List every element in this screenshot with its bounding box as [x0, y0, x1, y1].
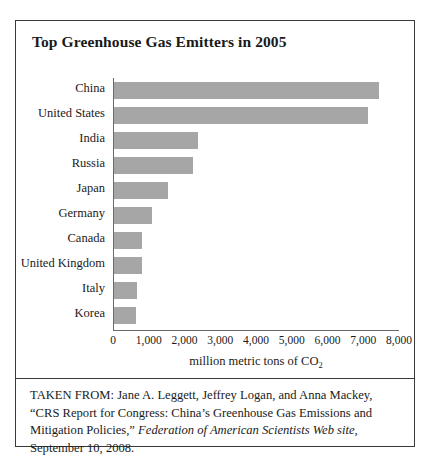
bar-row: Korea [113, 303, 399, 328]
bar-row: Japan [113, 178, 399, 203]
category-label-japan: Japan [0, 181, 105, 196]
x-tick-label: 6,000 [315, 334, 341, 346]
category-label-russia: Russia [0, 156, 105, 171]
category-label-united-states: United States [0, 106, 105, 121]
category-label-united-kingdom: United Kingdom [0, 256, 105, 271]
bar-row: Germany [113, 203, 399, 228]
category-label-germany: Germany [0, 206, 105, 221]
x-axis-line [113, 330, 399, 331]
category-label-india: India [0, 131, 105, 146]
x-tick-label: 2,000 [172, 334, 198, 346]
x-tick-label: 0 [110, 334, 116, 346]
x-axis-title: million metric tons of CO2 [113, 354, 399, 369]
bar-chart: ChinaUnited StatesIndiaRussiaJapanGerman… [16, 73, 414, 373]
bar-italy [114, 282, 137, 299]
bar-united-states [114, 107, 368, 124]
bar-row: United States [113, 103, 399, 128]
category-label-italy: Italy [0, 281, 105, 296]
bar-germany [114, 207, 152, 224]
bar-korea [114, 307, 136, 324]
figure-caption: TAKEN FROM: Jane A. Leggett, Jeffrey Log… [30, 387, 402, 457]
figure-title: Top Greenhouse Gas Emitters in 2005 [32, 33, 287, 51]
x-tick-label: 4,000 [243, 334, 269, 346]
category-label-korea: Korea [0, 306, 105, 321]
bar-row: China [113, 78, 399, 103]
bar-japan [114, 182, 168, 199]
caption-source-title: Federation of American Scientists Web si… [138, 423, 355, 437]
x-tick-label: 5,000 [279, 334, 305, 346]
plot-area: ChinaUnited StatesIndiaRussiaJapanGerman… [113, 78, 399, 330]
bar-china [114, 82, 379, 99]
category-label-china: China [0, 81, 105, 96]
category-label-canada: Canada [0, 231, 105, 246]
bar-united-kingdom [114, 257, 142, 274]
x-tick-label: 7,000 [350, 334, 376, 346]
bar-row: United Kingdom [113, 253, 399, 278]
caption-divider [16, 378, 414, 379]
bar-row: Russia [113, 153, 399, 178]
x-tick-label: 3,000 [207, 334, 233, 346]
bar-row: Canada [113, 228, 399, 253]
figure-container: Top Greenhouse Gas Emitters in 2005 Chin… [15, 20, 415, 447]
bar-india [114, 132, 198, 149]
bar-row: Italy [113, 278, 399, 303]
bar-row: India [113, 128, 399, 153]
x-tick-label: 1,000 [136, 334, 162, 346]
x-tick-label: 8,000 [386, 334, 412, 346]
bar-canada [114, 232, 142, 249]
bar-russia [114, 157, 193, 174]
